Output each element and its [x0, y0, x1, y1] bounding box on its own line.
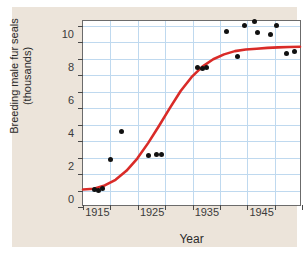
x-tick-label: 1945 [238, 206, 286, 218]
y-tick-label: 2 [40, 160, 74, 172]
y-tick-label: 0 [40, 193, 74, 205]
data-point [268, 32, 273, 37]
data-point [100, 186, 105, 191]
data-point [274, 23, 279, 28]
x-tick-label: 1925 [128, 206, 176, 218]
y-tick-label: 4 [40, 127, 74, 139]
page-cut-text-strip: • • • • • [0, 0, 307, 7]
y-tick-label: 10 [40, 28, 74, 40]
y-axis-title-line1: Breeding male fur seals [8, 1, 21, 151]
y-tick-label: 8 [40, 61, 74, 73]
x-tick-label: 1915 [73, 206, 121, 218]
y-axis-title-line2: (thousands) [21, 1, 34, 151]
fit-curve [83, 21, 300, 205]
data-point [292, 49, 297, 54]
plot-area [82, 20, 301, 206]
chart-panel: Breeding male fur seals (thousands) Year… [12, 7, 297, 247]
x-tick [302, 205, 303, 210]
data-point [284, 51, 289, 56]
figure-container: • • • • • Breeding male fur seals (thous… [0, 0, 307, 256]
y-axis-title: Breeding male fur seals (thousands) [8, 1, 34, 151]
x-tick-label: 1935 [183, 206, 231, 218]
y-tick-label: 6 [40, 94, 74, 106]
x-axis-title: Year [82, 232, 301, 246]
